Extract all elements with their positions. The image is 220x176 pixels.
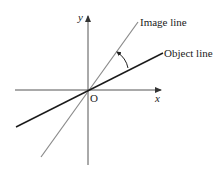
origin-label: O — [90, 92, 98, 104]
diagram-canvas: y x O Image line Object line — [0, 0, 220, 176]
y-axis-label: y — [77, 11, 83, 23]
image-line-label: Image line — [140, 16, 187, 28]
object-line-label: Object line — [164, 47, 213, 59]
rotation-arc-icon — [117, 52, 128, 68]
x-axis-label: x — [154, 92, 160, 104]
